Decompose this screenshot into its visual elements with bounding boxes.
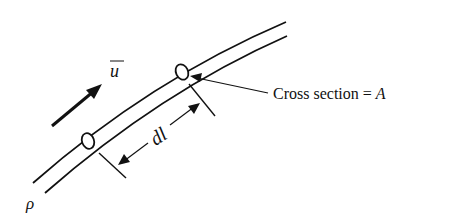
dl-arrow-upper (170, 103, 200, 125)
dl-tick-left (99, 153, 126, 178)
tube-upper-wall (33, 22, 286, 183)
stream-tube-diagram: u dl Cross section = A ρ (0, 0, 456, 219)
velocity-label: u (110, 61, 124, 81)
tube-lower-wall (45, 36, 287, 193)
cross-section-pointer-icon (190, 73, 268, 93)
density-label: ρ (25, 194, 34, 213)
cross-section-label: Cross section = A (273, 85, 386, 102)
dl-label: dl (146, 123, 171, 150)
svg-text:u: u (110, 61, 119, 81)
dl-arrow-lower (118, 143, 148, 165)
velocity-arrow-icon (52, 84, 102, 126)
